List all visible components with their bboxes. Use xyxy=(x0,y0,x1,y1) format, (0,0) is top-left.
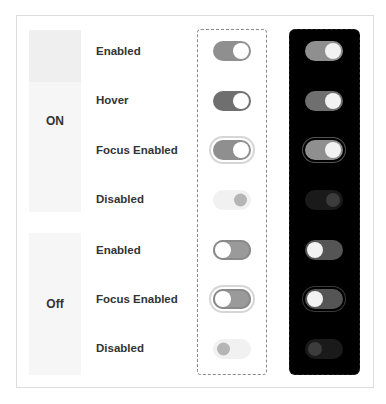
toggle-light-on-focus[interactable] xyxy=(213,140,251,160)
toggle-knob xyxy=(326,193,340,207)
toggle-knob xyxy=(325,142,341,158)
toggle-knob xyxy=(234,194,247,207)
group-label-off: Off xyxy=(29,233,81,375)
toggle-knob xyxy=(308,342,322,356)
toggle-light-on-hover[interactable] xyxy=(213,91,251,111)
toggle-dark-on-enabled[interactable] xyxy=(305,41,343,61)
group-label-on-text: ON xyxy=(46,114,64,128)
toggle-dark-off-enabled[interactable] xyxy=(305,240,343,260)
toggle-knob xyxy=(215,291,231,307)
toggle-knob xyxy=(325,43,341,59)
toggle-knob xyxy=(233,93,249,109)
row-label-off-disabled: Disabled xyxy=(96,342,144,354)
toggle-knob xyxy=(307,242,323,258)
toggle-light-off-disabled xyxy=(213,339,251,359)
group-label-off-text: Off xyxy=(46,297,63,311)
toggle-light-off-focus[interactable] xyxy=(213,289,251,309)
row-label-off-enabled: Enabled xyxy=(96,244,141,256)
toggle-knob xyxy=(233,43,249,59)
toggle-light-on-disabled xyxy=(213,190,251,210)
row-label-off-focus: Focus Enabled xyxy=(96,293,178,305)
toggle-dark-off-focus[interactable] xyxy=(305,289,343,309)
toggle-dark-off-disabled xyxy=(305,339,343,359)
toggle-dark-on-disabled xyxy=(305,190,343,210)
toggle-knob xyxy=(215,242,231,258)
toggle-dark-on-focus[interactable] xyxy=(305,140,343,160)
row-label-on-enabled: Enabled xyxy=(96,45,141,57)
group-on-top-shade xyxy=(29,30,81,82)
toggle-knob xyxy=(307,291,323,307)
row-label-on-hover: Hover xyxy=(96,94,129,106)
toggle-light-off-enabled[interactable] xyxy=(213,240,251,260)
toggle-knob xyxy=(233,142,249,158)
toggle-dark-on-hover[interactable] xyxy=(305,91,343,111)
toggle-light-on-enabled[interactable] xyxy=(213,41,251,61)
row-label-on-focus: Focus Enabled xyxy=(96,144,178,156)
toggle-knob xyxy=(325,93,341,109)
row-label-on-disabled: Disabled xyxy=(96,193,144,205)
toggle-knob xyxy=(217,343,230,356)
